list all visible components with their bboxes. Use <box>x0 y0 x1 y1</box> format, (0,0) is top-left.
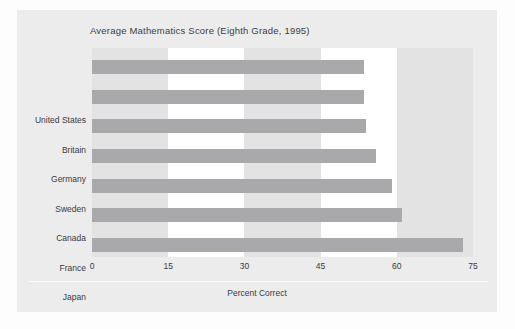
category-label-britain: Britain <box>62 145 86 155</box>
x-tick-60: 60 <box>392 261 401 271</box>
bar-japan <box>92 238 463 252</box>
chart-title: Average Mathematics Score (Eighth Grade,… <box>90 25 310 36</box>
axis-separator-rule <box>28 281 488 282</box>
x-tick-75: 75 <box>468 261 477 271</box>
category-label-canada: Canada <box>56 233 86 243</box>
x-axis-title: Percent Correct <box>17 288 497 298</box>
category-label-germany: Germany <box>51 174 86 184</box>
x-tick-30: 30 <box>240 261 249 271</box>
bars-layer <box>92 48 473 257</box>
category-label-france: France <box>60 263 86 273</box>
x-axis-ticks: 0 15 30 45 60 75 <box>92 261 473 275</box>
plot-area <box>92 48 473 257</box>
category-label-sweden: Sweden <box>55 204 86 214</box>
category-label-united-states: United States <box>35 115 86 125</box>
bar-france <box>92 208 402 222</box>
bar-united-states <box>92 60 364 74</box>
bar-germany <box>92 119 366 133</box>
x-tick-45: 45 <box>316 261 325 271</box>
category-axis: United States Britain Germany Sweden Can… <box>0 48 86 257</box>
x-tick-15: 15 <box>163 261 172 271</box>
bar-sweden <box>92 149 376 163</box>
x-tick-0: 0 <box>90 261 95 271</box>
bar-canada <box>92 179 392 193</box>
bar-britain <box>92 90 364 104</box>
chart-figure: Average Mathematics Score (Eighth Grade,… <box>0 0 515 329</box>
